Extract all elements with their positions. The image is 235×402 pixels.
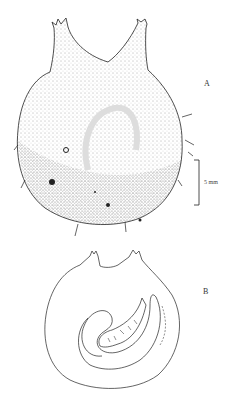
scientific-figure: A B 5 mm (0, 0, 235, 402)
panel-label-b: B (203, 287, 208, 296)
scale-bar-label: 5 mm (204, 179, 218, 185)
scale-bar (194, 160, 199, 205)
panel-label-a: A (204, 79, 210, 88)
figure-drawing (0, 0, 235, 402)
panel-b-specimen (45, 250, 180, 388)
panel-a-specimen (14, 18, 194, 236)
